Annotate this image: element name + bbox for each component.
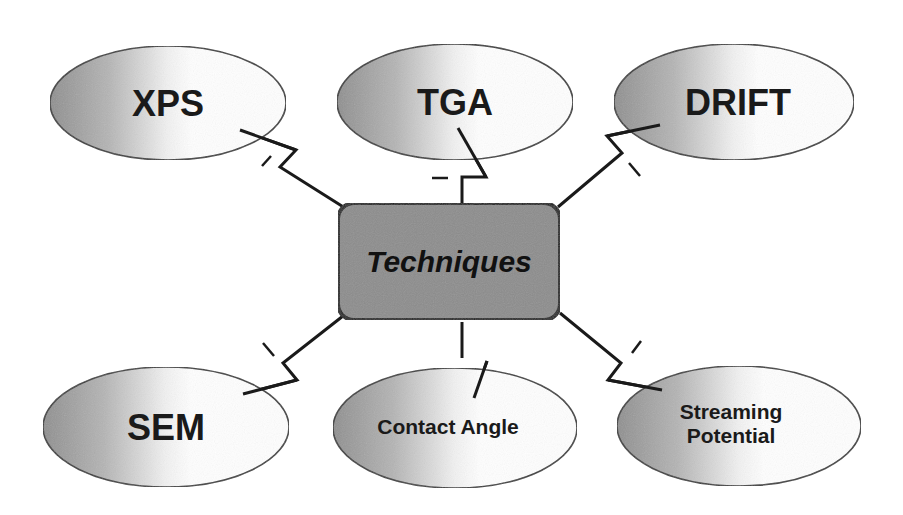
center-node-techniques: Techniques xyxy=(338,203,560,320)
node-label-streaming-line2: Potential xyxy=(687,424,776,447)
node-streaming-potential: Streaming Potential xyxy=(617,366,861,486)
node-contact-angle: Contact Angle xyxy=(333,368,577,488)
node-label-sem: SEM xyxy=(127,407,205,448)
node-label-tga: TGA xyxy=(417,82,493,123)
node-drift: DRIFT xyxy=(614,44,854,160)
techniques-diagram: XPS TGA DRIFT SEM Contact Angle Streamin… xyxy=(0,0,903,515)
node-label-streaming-line1: Streaming xyxy=(680,400,783,423)
node-sem: SEM xyxy=(43,367,289,487)
connector-streaming-potential-tick xyxy=(632,341,641,353)
node-label-drift: DRIFT xyxy=(685,82,791,123)
connector-xps-tick xyxy=(262,156,271,166)
connector-drift-tick xyxy=(629,163,640,176)
node-tga: TGA xyxy=(337,44,573,160)
connector-streaming-potential xyxy=(560,313,662,390)
node-label-contact-angle: Contact Angle xyxy=(377,415,519,438)
node-label-xps: XPS xyxy=(132,83,204,124)
node-xps: XPS xyxy=(50,46,286,160)
connector-sem-tick xyxy=(263,343,274,356)
center-label: Techniques xyxy=(366,245,532,278)
